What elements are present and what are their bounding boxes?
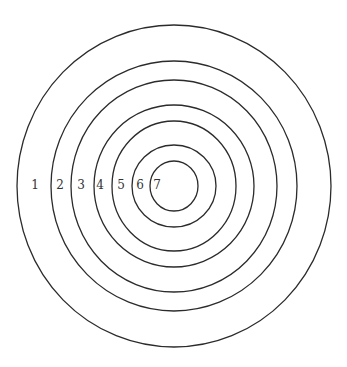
ring-label-1: 1 <box>31 178 39 192</box>
concentric-circles-diagram: 1234567 <box>0 0 347 367</box>
ring-label-4: 4 <box>96 178 104 192</box>
ring-1 <box>17 25 331 347</box>
ring-6 <box>132 145 216 227</box>
ring-label-2: 2 <box>56 178 64 192</box>
ring-label-5: 5 <box>117 178 125 192</box>
ring-label-6: 6 <box>136 178 144 192</box>
ring-label-3: 3 <box>77 178 85 192</box>
ring-2 <box>51 61 297 311</box>
rings-group <box>17 25 331 347</box>
ring-5 <box>112 121 236 251</box>
ring-label-7: 7 <box>153 178 161 192</box>
diagram-svg: 1234567 <box>0 0 347 367</box>
